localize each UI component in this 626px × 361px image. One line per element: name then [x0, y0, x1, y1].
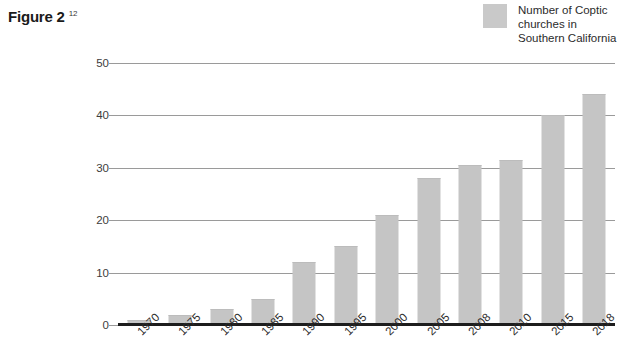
bar-2015[interactable]: [541, 115, 564, 325]
bar-2000[interactable]: [376, 215, 399, 325]
figure-caption-text: Figure 2: [8, 8, 65, 25]
chart-legend: Number of Coptic churches in Southern Ca…: [483, 3, 626, 46]
y-tick-mark-0: [109, 325, 118, 326]
bar-slot-1985: [242, 63, 283, 325]
bar-2010[interactable]: [500, 160, 523, 325]
bar-2018[interactable]: [583, 94, 606, 325]
figure-caption: Figure 212: [8, 8, 77, 25]
bar-slot-2000: [367, 63, 408, 325]
figure-footnote-marker: 12: [69, 9, 78, 18]
y-axis-label-0: 0: [103, 319, 109, 331]
bar-1995[interactable]: [334, 246, 357, 325]
bar-slot-2005: [408, 63, 449, 325]
y-tick-mark-40: [109, 115, 118, 116]
figure-container: Figure 212 Number of Coptic churches in …: [0, 0, 626, 361]
x-axis-labels: 1970197519801985199019952000200520082010…: [118, 327, 615, 361]
bar-slot-1980: [201, 63, 242, 325]
bar-slot-1975: [159, 63, 200, 325]
bar-slot-1970: [118, 63, 159, 325]
y-tick-mark-20: [109, 220, 118, 221]
legend-swatch-series-1: [483, 4, 507, 28]
bar-slot-2018: [574, 63, 615, 325]
y-axis-label-30: 30: [96, 162, 109, 174]
bar-slot-1990: [284, 63, 325, 325]
bar-slot-2010: [491, 63, 532, 325]
y-axis-label-50: 50: [96, 57, 109, 69]
y-axis-label-20: 20: [96, 214, 109, 226]
y-tick-mark-30: [109, 168, 118, 169]
y-axis-label-10: 10: [96, 267, 109, 279]
bar-slot-2015: [532, 63, 573, 325]
bars-group: [118, 63, 615, 325]
bar-slot-2008: [449, 63, 490, 325]
bar-2005[interactable]: [417, 178, 440, 325]
y-tick-mark-50: [109, 63, 118, 64]
plot-area: 01020304050: [118, 63, 615, 325]
y-axis-label-40: 40: [96, 109, 109, 121]
bar-2008[interactable]: [459, 165, 482, 325]
y-tick-mark-10: [109, 273, 118, 274]
legend-label-series-1: Number of Coptic churches in Southern Ca…: [518, 3, 626, 46]
bar-slot-1995: [325, 63, 366, 325]
